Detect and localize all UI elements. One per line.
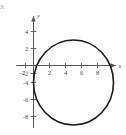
figure-container: 3. -2 2 4 6 8 — [0, 0, 126, 135]
x-tick-label-4: 4 — [64, 69, 68, 76]
y-tick-label--2: -2 — [23, 70, 28, 77]
y-axis-label: y — [36, 12, 40, 19]
y-tick-label--4: -4 — [23, 79, 29, 86]
x-axis-label: x — [118, 62, 122, 69]
x-tick-label-6: 6 — [80, 69, 83, 76]
y-tick-label--6: -6 — [23, 96, 28, 103]
y-tick-label--8: -8 — [23, 113, 28, 120]
y-tick-label-2: 2 — [25, 45, 28, 52]
x-tick-label-8: 8 — [96, 69, 99, 76]
y-tick-label-4: 4 — [25, 28, 29, 35]
x-tick-label-2: 2 — [48, 69, 51, 76]
coordinate-plot: -2 2 4 6 8 4 2 -2 -4 -6 -8 x y — [0, 0, 126, 135]
y-axis-arrow-icon — [31, 16, 36, 22]
circle-curve — [34, 40, 114, 125]
